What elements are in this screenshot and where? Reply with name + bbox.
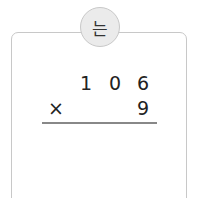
problem-card — [11, 32, 187, 198]
multiply-operator: × — [48, 99, 64, 118]
multiplicand-digit-ones: 6 — [137, 74, 149, 93]
multiplicand-digit-tens: 0 — [109, 74, 121, 93]
answer-rule-line — [42, 122, 157, 124]
badge-label: 는 — [92, 15, 108, 40]
multiplier-digit-ones: 9 — [137, 99, 149, 118]
multiplicand-digit-hundreds: 1 — [80, 74, 92, 93]
badge-circle: 는 — [80, 7, 120, 47]
